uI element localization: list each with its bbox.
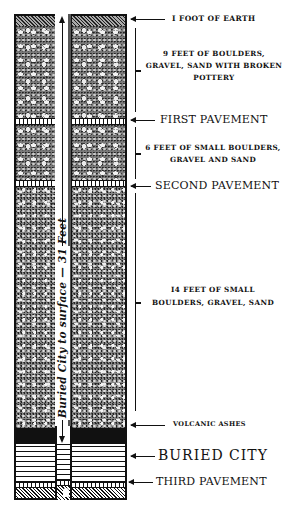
middle-gravel-layer — [72, 125, 125, 180]
third-pavement-label: THIRD PAVEMENT — [156, 475, 267, 488]
volcanic-ashes-label: VOLCANIC ASHES — [173, 420, 246, 428]
upper-boulders-label: 9 FEET OF BOULDERS, GRAVEL, SAND WITH BR… — [143, 48, 285, 84]
third-pavement-arrow — [129, 482, 153, 483]
lower-boulders-label: I4 FEET OF SMALL BOULDERS, GRAVEL, SAND — [143, 283, 283, 309]
upper-boulders-layer — [72, 26, 125, 118]
middle-gravel-label-line-1: 6 FEET OF SMALL BOULDERS, — [143, 142, 283, 154]
bedrock-layer — [72, 488, 125, 500]
upper-boulders-brace — [135, 28, 143, 112]
column-left-panel — [14, 14, 57, 500]
lower-boulders-label-line-1: I4 FEET OF SMALL — [143, 283, 283, 296]
middle-gravel-label-line-2: GRAVEL AND SAND — [143, 154, 283, 166]
volcanic-ash-layer — [16, 428, 55, 444]
second-pavement-label: SECOND PAVEMENT — [155, 179, 279, 192]
middle-gravel-brace — [135, 127, 143, 179]
upper-boulders-layer — [16, 26, 55, 118]
first-pavement-layer — [16, 118, 55, 125]
upper-boulders-label-line-3: POTTERY — [143, 72, 285, 84]
second-pavement-layer — [72, 180, 125, 187]
first-pavement-arrow — [131, 120, 155, 121]
buried-city-label: BURIED CITY — [158, 447, 268, 463]
second-pavement-arrow — [131, 186, 151, 187]
earth-arrow — [131, 19, 165, 20]
column-right-panel — [70, 14, 127, 500]
upper-boulders-label-line-1: 9 FEET OF BOULDERS, — [143, 48, 285, 60]
volcanic-ashes-arrow — [131, 425, 165, 426]
lower-boulders-brace — [135, 193, 143, 411]
arrow-down-icon — [59, 436, 65, 443]
earth-layer — [72, 16, 125, 26]
lower-boulders-layer — [16, 187, 55, 428]
middle-gravel-layer — [16, 125, 55, 180]
lower-boulders-label-line-2: BOULDERS, GRAVEL, SAND — [143, 296, 283, 309]
buried-city-fill — [57, 442, 70, 480]
first-pavement-label: FIRST PAVEMENT — [160, 113, 267, 126]
arrow-up-icon — [59, 16, 65, 23]
keyhole-icon — [63, 488, 69, 497]
upper-boulders-label-line-2: GRAVEL, SAND WITH BROKEN — [143, 60, 285, 72]
buried-city-arrow — [131, 456, 155, 457]
earth-layer — [16, 16, 55, 26]
middle-gravel-label: 6 FEET OF SMALL BOULDERS, GRAVEL AND SAN… — [143, 142, 283, 166]
second-pavement-layer — [16, 180, 55, 187]
earth-label: I FOOT OF EARTH — [172, 14, 255, 23]
first-pavement-layer — [72, 118, 125, 125]
shaft-depth-label: Buried City to surface — 31 Feet — [56, 246, 70, 420]
buried-city-layer — [16, 444, 55, 482]
lower-boulders-layer — [72, 187, 125, 428]
bedrock-layer — [16, 488, 55, 500]
buried-city-layer — [72, 444, 125, 482]
volcanic-ash-layer — [72, 428, 125, 444]
